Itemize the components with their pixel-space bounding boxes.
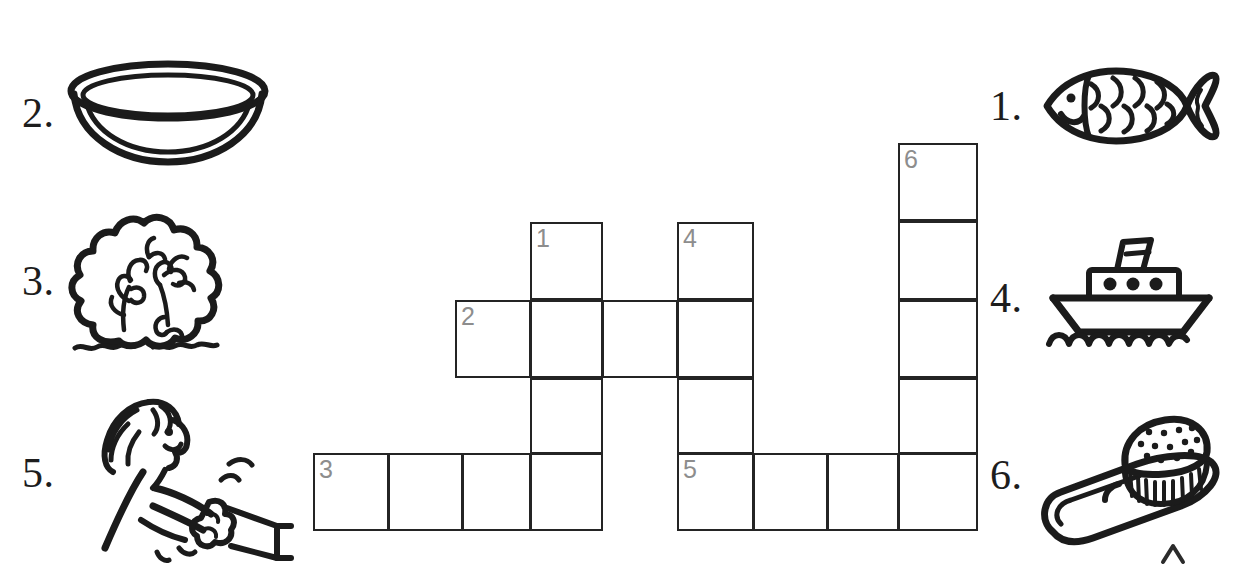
- cell-number: 2: [461, 303, 475, 329]
- crossword-cell[interactable]: 5: [677, 453, 754, 531]
- crossword-cell[interactable]: [898, 378, 978, 454]
- caret-mark: [1158, 540, 1188, 566]
- push-icon: [61, 380, 291, 565]
- clue-4-number: 4.: [990, 277, 1023, 319]
- crossword-cell[interactable]: 2: [455, 300, 531, 378]
- clue-2-bowl: 2.: [22, 58, 276, 168]
- crossword-cell[interactable]: [462, 453, 531, 531]
- crossword-cell[interactable]: [530, 378, 603, 454]
- worksheet-page: 2. 3.: [0, 0, 1248, 571]
- clue-6-number: 6.: [990, 454, 1023, 496]
- crossword-cell[interactable]: [530, 300, 603, 378]
- crossword-cell[interactable]: 6: [898, 143, 978, 221]
- clue-6-brush: 6.: [990, 392, 1226, 557]
- crossword-cell[interactable]: [602, 300, 678, 378]
- bowl-icon: [61, 58, 276, 168]
- brush-icon: [1031, 392, 1226, 557]
- fish-icon: [1031, 62, 1221, 150]
- cell-number: 5: [683, 456, 697, 482]
- bush-icon: [61, 205, 231, 357]
- crossword-cell[interactable]: [530, 453, 603, 531]
- crossword-cell[interactable]: [898, 300, 978, 378]
- clue-5-push: 5.: [22, 380, 291, 565]
- cell-number: 6: [904, 146, 918, 172]
- crossword-cell[interactable]: [388, 453, 463, 531]
- crossword-cell[interactable]: [898, 453, 978, 531]
- clue-3-bush: 3.: [22, 205, 231, 357]
- cell-number: 1: [536, 225, 550, 251]
- crossword-cell[interactable]: 1: [530, 222, 603, 300]
- cell-number: 3: [319, 456, 333, 482]
- clue-1-number: 1.: [990, 85, 1023, 127]
- ship-icon: [1031, 240, 1221, 355]
- crossword-cell[interactable]: [898, 221, 978, 300]
- crossword-cell[interactable]: 4: [677, 222, 754, 300]
- clue-1-fish: 1.: [990, 62, 1221, 150]
- crossword-cell[interactable]: [677, 378, 754, 454]
- clue-4-ship: 4.: [990, 240, 1221, 355]
- clue-3-number: 3.: [22, 260, 55, 302]
- crossword-cell[interactable]: [827, 453, 899, 531]
- crossword-cell[interactable]: 3: [313, 453, 389, 531]
- clue-2-number: 2.: [22, 92, 55, 134]
- cell-number: 4: [683, 225, 697, 251]
- crossword-cell[interactable]: [753, 453, 828, 531]
- crossword-cell[interactable]: [677, 300, 754, 378]
- clue-5-number: 5.: [22, 452, 55, 494]
